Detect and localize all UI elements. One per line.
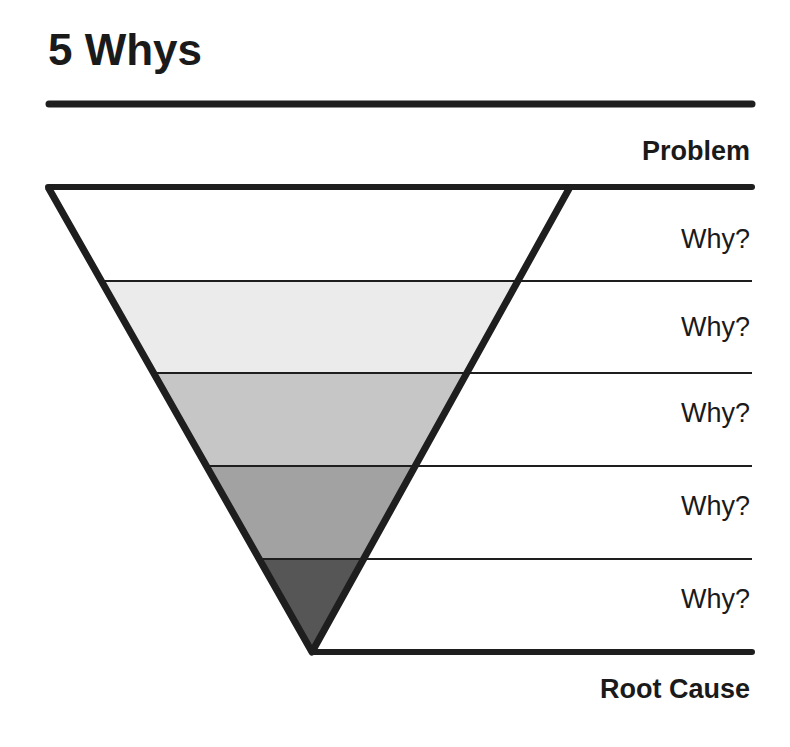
funnel-diagram xyxy=(0,0,790,747)
why-label-3: Why? xyxy=(681,400,750,427)
root-cause-label: Root Cause xyxy=(600,676,750,703)
why-label-1: Why? xyxy=(681,226,750,253)
why-label-5: Why? xyxy=(681,586,750,613)
why-label-2: Why? xyxy=(681,314,750,341)
band-5 xyxy=(259,559,363,652)
problem-label: Problem xyxy=(642,138,750,165)
why-label-4: Why? xyxy=(681,493,750,520)
band-2 xyxy=(101,281,518,373)
band-4 xyxy=(207,466,415,559)
band-1 xyxy=(48,187,570,281)
